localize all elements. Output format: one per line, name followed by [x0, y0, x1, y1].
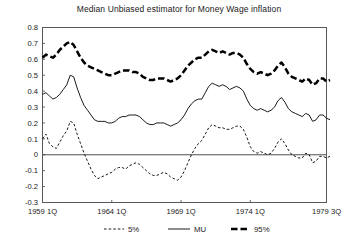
y-tick-label: 0.2	[27, 119, 38, 128]
data-series-group	[43, 42, 330, 180]
y-tick-label: 0.7	[27, 39, 38, 48]
y-tick-label: 0.5	[27, 71, 38, 80]
legend-label-5pct: 5%	[128, 225, 139, 234]
series-line-MU	[43, 75, 330, 126]
y-tick-label: -0.2	[25, 182, 38, 191]
x-tick-label: 1969 1Q	[166, 207, 195, 216]
x-tick-label: 1974 1Q	[236, 207, 265, 216]
y-tick-label: 0.4	[27, 87, 38, 96]
x-tick-label: 1964 1Q	[97, 207, 126, 216]
legend-label-MU: MU	[194, 225, 206, 234]
y-axis-tick-labels: 0.80.70.60.50.40.30.20.10-0.1-0.2-0.3	[25, 23, 38, 207]
x-tick-label: 1959 1Q	[28, 207, 57, 216]
chart-legend: 5%MU95%	[104, 225, 270, 234]
chart-figure: Median Unbiased estimator for Money Wage…	[0, 0, 358, 242]
legend-label-95pct: 95%	[254, 225, 270, 234]
y-tick-label: 0.6	[27, 55, 38, 64]
y-tick-label: 0.1	[27, 135, 38, 144]
y-tick-label: 0.8	[27, 23, 38, 32]
x-tick-label: 1979 3Q	[312, 207, 341, 216]
y-tick-label: 0.3	[27, 103, 38, 112]
chart-plot-area: 0.80.70.60.50.40.30.20.10-0.1-0.2-0.3 19…	[0, 0, 358, 242]
y-tick-label: 0	[34, 150, 38, 159]
series-line-95pct	[43, 42, 330, 85]
x-axis-tick-labels: 1959 1Q1964 1Q1969 1Q1974 1Q1979 3Q	[28, 207, 341, 216]
y-tick-label: -0.1	[25, 166, 38, 175]
series-line-5pct	[43, 121, 330, 180]
